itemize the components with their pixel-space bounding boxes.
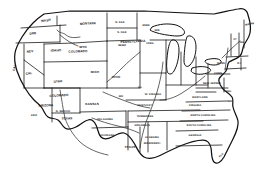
state-label: LOUISIANA — [99, 135, 114, 138]
state-label: TEXAS — [125, 146, 136, 149]
state-label: NH — [240, 42, 244, 45]
state-label: ALABAMA — [145, 137, 159, 140]
state-label: MO — [119, 96, 123, 99]
state-label: GEORGIA — [189, 135, 202, 138]
us-outline-map-figure: WASHOREMONTANAN. DAKS. DAKMINNNEVIDAHOWY… — [0, 0, 267, 175]
state-label: ARIZ — [31, 115, 37, 118]
great-lakes-group — [150, 24, 221, 74]
state-label: MD — [228, 101, 232, 104]
state-label: ARIZONA — [39, 104, 54, 108]
state-label: COLORADO — [69, 50, 88, 54]
border-or-ca — [16, 42, 60, 43]
state-label: S. DAK — [117, 32, 126, 35]
border-ma-vtnh — [226, 56, 248, 57]
border-mt-wy — [74, 41, 107, 43]
state-label: WIS — [154, 30, 159, 33]
state-label: NEV — [27, 50, 34, 54]
state-label: VT — [233, 39, 237, 42]
state-label: VIRGINIA — [189, 105, 201, 108]
lake-huron-outline — [184, 36, 196, 67]
columbia-river — [57, 30, 80, 38]
state-label: OHIO — [112, 76, 120, 79]
state-label: NEBR — [118, 45, 126, 48]
border-va-md — [186, 101, 228, 102]
state-label: MASS — [217, 63, 225, 66]
border-id-wy — [44, 43, 74, 44]
national-boundary-group — [15, 9, 251, 163]
state-label: UTAH — [54, 80, 63, 84]
state-label: NEW JERSEY — [203, 83, 221, 86]
border-sc-ga — [176, 130, 218, 131]
lake-michigan-outline — [167, 40, 179, 74]
border-wy-co — [44, 61, 107, 62]
state-label: W. VIRGINIA — [145, 94, 161, 97]
state-label: TEXAS — [62, 117, 73, 120]
state-label: R.I — [237, 63, 241, 66]
state-label: IDAHO — [51, 49, 62, 52]
state-label: N. DAK — [115, 22, 125, 25]
state-label: NORTH CAROLINA — [190, 115, 215, 118]
state-label: CAL — [26, 72, 33, 76]
state-label: ARKANSAS — [134, 125, 150, 128]
state-label: ILL — [138, 87, 142, 90]
state-label: MISSISSIPPI — [144, 143, 161, 146]
border-nc-sc — [180, 120, 228, 121]
state-label: N. MEXICO — [56, 111, 70, 114]
state-label: TENNESSEE — [137, 116, 154, 119]
state-label: MARYLAND — [192, 97, 208, 100]
state-label: CONN — [214, 73, 222, 76]
national-boundary-path — [15, 9, 251, 163]
state-label: DEL — [226, 91, 232, 94]
state-label: KENTUCKY — [137, 105, 152, 108]
state-label: IOWA — [146, 43, 153, 46]
state-label: SOUTH CAROLINA — [187, 125, 212, 128]
state-label: MICH — [91, 71, 99, 74]
border-wa-or — [21, 25, 66, 28]
border-ks-ok — [80, 111, 126, 112]
state-label: KANSAS — [85, 103, 99, 106]
state-label: MINN — [142, 25, 149, 28]
border-ma-ct — [225, 68, 246, 69]
state-label: OKLAHOMA — [97, 119, 113, 122]
